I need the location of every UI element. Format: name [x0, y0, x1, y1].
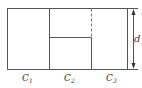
separation-label: d	[134, 33, 140, 44]
label-c2: C2	[64, 73, 75, 84]
label-c1: C1	[22, 73, 33, 84]
capacitor-diagram: d C1 C2 C3	[0, 0, 142, 88]
arrow-up-icon	[132, 9, 136, 15]
label-c3: C3	[106, 73, 117, 84]
outer-rectangle	[8, 9, 128, 70]
arrow-down-icon	[132, 63, 136, 69]
